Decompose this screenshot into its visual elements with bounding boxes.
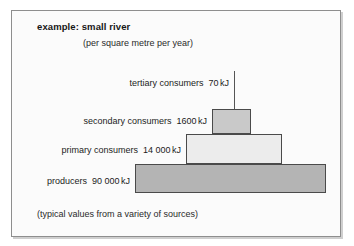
energy-pyramid-figure: example: small river (per square metre p… <box>0 0 354 246</box>
tier-value-tertiary: 70 <box>208 78 218 88</box>
figure-panel: example: small river (per square metre p… <box>11 10 341 237</box>
tier-value-producers: 90 000 <box>92 176 120 186</box>
tier-value-primary: 14 000 <box>143 145 171 155</box>
pyramid-label-producers: producers90 000kJ <box>12 176 130 186</box>
tier-unit-primary: kJ <box>171 145 182 155</box>
tier-value-secondary: 1600 <box>176 116 196 126</box>
tier-name-tertiary: tertiary consumers <box>129 78 203 88</box>
tier-name-producers: producers <box>47 176 87 186</box>
tier-unit-secondary: kJ <box>197 116 208 126</box>
tier-unit-tertiary: kJ <box>219 78 230 88</box>
tier-unit-producers: kJ <box>120 176 131 186</box>
tier-name-secondary: secondary consumers <box>83 116 171 126</box>
pyramid-tier-primary-consumers <box>186 134 282 164</box>
pyramid-plot-area: tertiary consumers70kJ secondary consume… <box>12 11 340 236</box>
pyramid-tier-secondary-consumers <box>212 109 251 134</box>
pyramid-tier-tertiary-consumers <box>234 71 235 109</box>
figure-footnote: (typical values from a variety of source… <box>37 209 198 219</box>
pyramid-label-secondary-consumers: secondary consumers1600kJ <box>12 116 207 126</box>
pyramid-tier-producers <box>135 164 326 193</box>
pyramid-label-primary-consumers: primary consumers14 000kJ <box>12 145 181 155</box>
pyramid-label-tertiary-consumers: tertiary consumers70kJ <box>12 78 229 88</box>
tier-name-primary: primary consumers <box>61 145 138 155</box>
